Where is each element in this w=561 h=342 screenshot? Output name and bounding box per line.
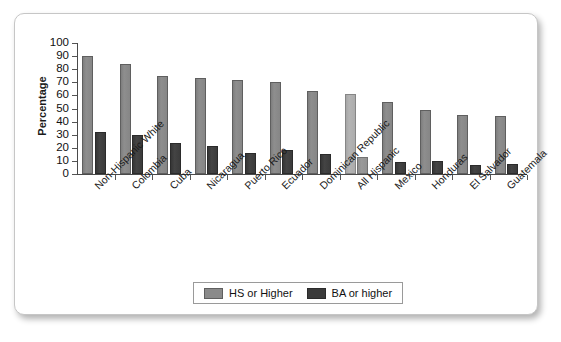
chart-legend: HS or HigherBA or higher <box>193 282 403 304</box>
y-tick-label: 30 <box>39 129 69 140</box>
legend-swatch-icon <box>204 288 223 299</box>
legend-entry: HS or Higher <box>204 287 293 299</box>
y-tick-label: 80 <box>39 63 69 74</box>
bar <box>82 56 93 174</box>
y-tick-label: 40 <box>39 116 69 127</box>
chart-figure-frame: Percentage 1009080706050403020100 Non-Hi… <box>14 13 538 315</box>
chart-plot-area: Percentage 1009080706050403020100 Non-Hi… <box>15 14 539 316</box>
bar <box>195 78 206 174</box>
y-tick-label: 100 <box>39 37 69 48</box>
y-tick-label: 0 <box>39 168 69 179</box>
y-tick-label: 70 <box>39 76 69 87</box>
y-tick-label: 60 <box>39 89 69 100</box>
y-tick-label: 20 <box>39 142 69 153</box>
legend-entry: BA or higher <box>307 287 393 299</box>
legend-label: BA or higher <box>332 287 393 299</box>
y-tick-label: 90 <box>39 50 69 61</box>
bar <box>95 132 106 174</box>
legend-label: HS or Higher <box>229 287 293 299</box>
legend-swatch-icon <box>307 288 326 299</box>
y-tick-label: 10 <box>39 155 69 166</box>
y-tick-label: 50 <box>39 103 69 114</box>
y-axis-line <box>77 43 78 174</box>
